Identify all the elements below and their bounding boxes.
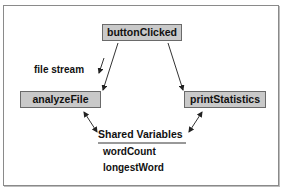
node-analyze-file: analyzeFile <box>20 91 101 108</box>
node-button-clicked: buttonClicked <box>102 24 182 41</box>
shared-variables-title: Shared Variables <box>98 128 183 140</box>
arrow-printstatistics-shared <box>189 112 202 132</box>
arrow-to-analyzefile <box>103 43 118 90</box>
edge-label-file-stream: file stream <box>34 64 84 75</box>
node-print-statistics: printStatistics <box>184 91 266 108</box>
file-stream-arrow <box>99 58 104 73</box>
arrow-analyzefile-shared <box>84 112 97 132</box>
shared-variable-longestword: longestWord <box>103 162 164 173</box>
arrow-to-printstatistics <box>168 43 183 90</box>
shared-variable-wordcount: wordCount <box>103 146 156 157</box>
